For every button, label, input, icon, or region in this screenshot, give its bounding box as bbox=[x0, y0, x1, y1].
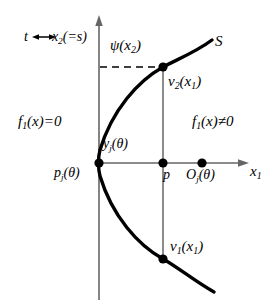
label-psi-head: ψ(x bbox=[110, 37, 131, 53]
label-axis-x1: x1 bbox=[250, 164, 262, 181]
label-t-x2-tail: (=s) bbox=[63, 29, 87, 44]
label-yj-theta: yj(θ) bbox=[103, 137, 128, 153]
label-f1n-tail: (x)≠0 bbox=[201, 113, 233, 129]
label-pj-theta: pj(θ) bbox=[54, 166, 80, 182]
label-f1z-tail: (x)=0 bbox=[27, 113, 61, 129]
label-psi-tail: ) bbox=[136, 37, 141, 53]
label-Oj-tail: (θ) bbox=[199, 167, 215, 182]
point-pj-theta bbox=[94, 158, 103, 167]
label-v2-of-x1: v2(x1) bbox=[168, 74, 201, 91]
label-v2-head: v bbox=[168, 73, 175, 89]
point-v1-x1 bbox=[158, 254, 167, 263]
label-region-f1-equals-zero: f1(x)=0 bbox=[18, 114, 61, 131]
label-region-f1-not-zero: f1(x)≠0 bbox=[192, 114, 234, 131]
label-v1-tail: ) bbox=[198, 238, 203, 254]
point-v2-x1 bbox=[158, 62, 167, 71]
label-v2-tail: ) bbox=[196, 73, 201, 89]
label-yj-tail: (θ) bbox=[112, 136, 128, 151]
label-t-x2-identification: tx2(=s) bbox=[24, 30, 87, 46]
label-point-p: p bbox=[163, 168, 170, 182]
label-t: t bbox=[24, 29, 28, 44]
math-figure: tx2(=s) ψ(x2) S v2(x1) f1(x)=0 f1(x)≠0 y… bbox=[0, 0, 278, 305]
label-v2-mid: (x bbox=[180, 73, 192, 89]
label-psi-of-x2: ψ(x2) bbox=[110, 38, 141, 55]
label-surface-S: S bbox=[215, 34, 223, 49]
label-v1-head: v bbox=[170, 238, 177, 254]
horizontal-axis bbox=[99, 159, 249, 166]
label-x1-sub: 1 bbox=[257, 170, 262, 181]
label-v1-mid: (x bbox=[182, 238, 194, 254]
label-Oj-head: O bbox=[186, 167, 196, 182]
label-pj-tail: (θ) bbox=[64, 165, 80, 180]
label-Oj-theta: Oj(θ) bbox=[186, 168, 215, 184]
label-pj-head: p bbox=[54, 165, 61, 180]
label-v1-of-x1: v1(x1) bbox=[170, 239, 203, 256]
label-x1-head: x bbox=[250, 163, 257, 179]
